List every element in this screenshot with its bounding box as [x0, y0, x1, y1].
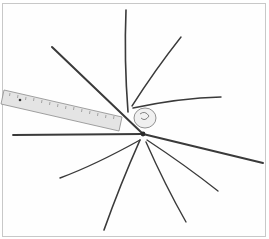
center-binding — [134, 108, 156, 136]
pine-needle-photo — [0, 0, 269, 239]
